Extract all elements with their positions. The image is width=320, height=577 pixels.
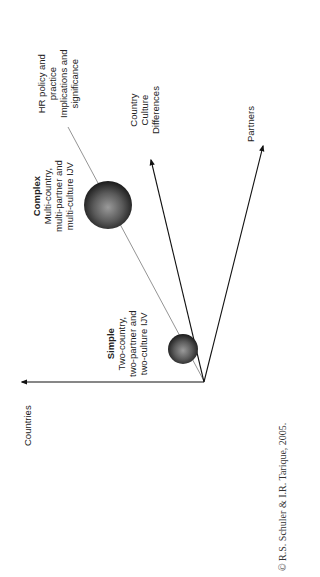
hr-label-line-1: HR policy and xyxy=(36,49,47,118)
simple-line-3: two-culture IJV xyxy=(138,310,149,377)
copyright-text: © R.S. Schuler & I.R. Tarique, 2005. xyxy=(277,423,288,571)
hr-implications-label: HR policy and practice Implications and … xyxy=(36,49,80,118)
culture-axis-label: Country Culture Differences xyxy=(128,86,161,134)
culture-label-line-1: Country xyxy=(128,86,139,134)
complex-line-1: Multi-country, xyxy=(42,160,53,232)
complex-line-2: multi-partner and xyxy=(53,160,64,232)
culture-label-line-3: Differences xyxy=(150,86,161,134)
complex-ijv-sphere xyxy=(84,181,132,229)
partners-axis-arrow xyxy=(204,146,263,382)
partners-label-text: Partners xyxy=(245,106,256,142)
hr-label-line-3: Implications and xyxy=(58,49,69,118)
simple-ijv-label: Simple Two-country, two-partner and two-… xyxy=(105,310,149,377)
copyright-notice: © R.S. Schuler & I.R. Tarique, 2005. xyxy=(277,423,288,571)
hr-label-line-2: practice xyxy=(47,49,58,118)
complex-ijv-label: Complex Multi-country, multi-partner and… xyxy=(31,160,75,232)
simple-title: Simple xyxy=(105,310,116,377)
complex-title: Complex xyxy=(31,160,42,232)
complex-line-3: multi-culture IJV xyxy=(64,160,75,232)
hr-label-line-4: significance xyxy=(69,49,80,118)
culture-label-line-2: Culture xyxy=(139,86,150,134)
partners-axis-label: Partners xyxy=(245,106,256,142)
countries-axis-label: Countries xyxy=(22,405,33,446)
simple-ijv-sphere xyxy=(168,334,198,364)
countries-label-text: Countries xyxy=(22,405,33,446)
simple-line-2: two-partner and xyxy=(127,310,138,377)
simple-line-1: Two-country, xyxy=(116,310,127,377)
